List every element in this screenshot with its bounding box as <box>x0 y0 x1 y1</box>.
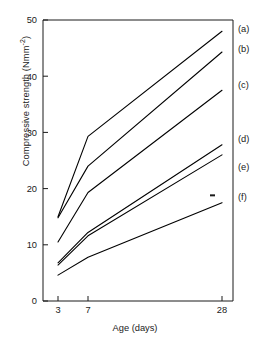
stray-ink-mark <box>210 194 215 196</box>
series-label-d: (d) <box>238 134 249 144</box>
series-label-a: (a) <box>238 24 249 34</box>
series-label-c: (c) <box>238 80 249 90</box>
y-tick-label: 30 <box>27 128 37 138</box>
x-tick-label: 28 <box>217 305 227 315</box>
x-tick-label: 3 <box>55 305 60 315</box>
series-line-a <box>58 31 222 216</box>
series-line-f <box>58 203 222 275</box>
series-label-b: (b) <box>238 44 249 54</box>
y-axis-ticks: 01020304050 <box>27 15 48 306</box>
series-labels: (a)(b)(c)(d)(e)(f) <box>238 24 249 202</box>
series-line-c <box>58 90 222 242</box>
y-tick-label: 10 <box>27 240 37 250</box>
series-line-e <box>58 155 222 265</box>
annotations <box>210 194 215 196</box>
x-axis-ticks: 3728 <box>55 296 227 315</box>
chart-figure: Compressive strength (Nmm-2) Age (days) … <box>0 0 270 341</box>
y-tick-label: 20 <box>27 184 37 194</box>
y-tick-label: 50 <box>27 15 37 25</box>
plot-area: 01020304050 3728 (a)(b)(c)(d)(e)(f) <box>0 0 270 341</box>
data-series-lines <box>58 31 222 275</box>
series-label-e: (e) <box>238 162 249 172</box>
x-tick-label: 7 <box>85 305 90 315</box>
y-tick-label: 40 <box>27 72 37 82</box>
series-label-f: (f) <box>238 192 247 202</box>
y-tick-label: 0 <box>32 296 37 306</box>
axes <box>43 20 233 301</box>
series-line-b <box>58 52 222 218</box>
